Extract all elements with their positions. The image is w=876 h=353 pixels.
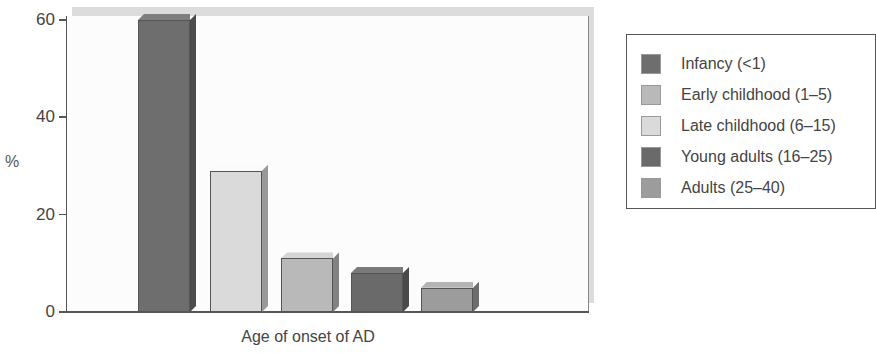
legend-item: Late childhood (6–15): [641, 115, 836, 137]
bar-side-face: [262, 165, 268, 312]
legend-item: Young adults (16–25): [641, 146, 833, 168]
bar-side-face: [403, 267, 409, 312]
bar-side-face: [333, 252, 339, 312]
y-tick-mark: [59, 214, 66, 216]
bar: [421, 282, 481, 312]
bar-front-face: [281, 258, 333, 312]
legend-swatch-icon: [641, 116, 661, 136]
bar-side-face: [473, 282, 479, 312]
legend-label: Infancy (<1): [681, 55, 766, 73]
y-axis-line: [66, 16, 67, 312]
legend-label: Late childhood (6–15): [681, 117, 836, 135]
legend-item: Adults (25–40): [641, 177, 785, 199]
bar-front-face: [210, 171, 262, 312]
bar-front-face: [351, 273, 403, 312]
legend-label: Adults (25–40): [681, 179, 785, 197]
y-tick-label: 0: [15, 302, 55, 322]
y-tick-label: 20: [15, 205, 55, 225]
legend-label: Young adults (16–25): [681, 148, 833, 166]
bar-front-face: [421, 288, 473, 312]
bar-side-face: [190, 14, 196, 312]
legend-item: Infancy (<1): [641, 53, 766, 75]
y-tick-mark: [59, 116, 66, 118]
legend-swatch-icon: [641, 54, 661, 74]
legend-swatch-icon: [641, 85, 661, 105]
legend-item: Early childhood (1–5): [641, 84, 832, 106]
bar-front-face: [138, 20, 190, 312]
y-tick-label: 60: [15, 10, 55, 30]
legend-swatch-icon: [641, 147, 661, 167]
bar: [210, 165, 270, 312]
y-tick-mark: [59, 19, 66, 21]
legend-label: Early childhood (1–5): [681, 86, 832, 104]
legend-swatch-icon: [641, 178, 661, 198]
y-tick-mark: [59, 311, 66, 313]
legend: Infancy (<1)Early childhood (1–5)Late ch…: [626, 34, 876, 209]
y-tick-label: 40: [15, 107, 55, 127]
bar: [281, 252, 341, 312]
y-axis-title: %: [5, 153, 19, 171]
bar: [138, 14, 198, 312]
x-axis-title: Age of onset of AD: [208, 328, 408, 346]
bar: [351, 267, 411, 312]
